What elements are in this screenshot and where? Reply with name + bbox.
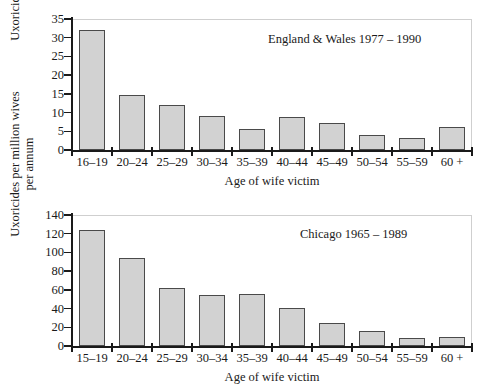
x-axis-tick (311, 343, 313, 352)
bar (359, 135, 385, 150)
x-axis-tick-label: 16–19 (76, 156, 107, 169)
x-axis-tick (151, 147, 153, 156)
chart-panel-chicago: Uxoricides per million wives per annum C… (0, 196, 487, 392)
x-axis-tick-label: 25–29 (156, 156, 187, 169)
x-axis-tick (191, 343, 193, 352)
x-axis-title-top: Age of wife victim (72, 174, 472, 189)
y-axis-tick-label: 80 (22, 265, 64, 278)
x-axis-tick-label: 25–29 (156, 352, 187, 365)
x-axis-tick-label: 45–49 (316, 156, 347, 169)
x-axis-tick-label: 55–59 (396, 156, 427, 169)
bar (439, 337, 465, 346)
bar (79, 230, 105, 346)
y-axis-tick-label: 0 (22, 340, 64, 353)
uxoricide-rate-figure: Uxoricides per million wives per annum E… (0, 0, 487, 392)
x-axis-tick-label: 35–39 (236, 352, 267, 365)
x-axis-tick (151, 343, 153, 352)
x-axis-tick-label: 50–54 (356, 352, 387, 365)
bar (119, 258, 145, 346)
y-axis-tick-label: 20 (22, 321, 64, 334)
x-axis-tick (351, 343, 353, 352)
bar (399, 338, 425, 346)
y-axis-tick (64, 289, 73, 291)
y-axis-tick-label: 40 (22, 302, 64, 315)
bar (159, 288, 185, 346)
y-axis-title-line1: Uxoricides per million wives (8, 0, 22, 41)
bar (279, 117, 305, 150)
y-axis-tick-label: 60 (22, 284, 64, 297)
y-axis-tick-label: 120 (22, 227, 64, 240)
x-axis-title-bottom: Age of wife victim (72, 370, 472, 385)
x-axis-tick (351, 147, 353, 156)
x-axis-tick (271, 343, 273, 352)
x-axis-tick-label: 60 + (441, 352, 464, 365)
chart-annotation-top: England & Wales 1977 – 1990 (268, 32, 421, 47)
x-axis-tick (431, 343, 433, 352)
x-axis-tick-label: 45–49 (316, 352, 347, 365)
y-axis-tick-label: 25 (22, 50, 64, 63)
x-axis-tick (231, 343, 233, 352)
bar (439, 127, 465, 150)
x-axis-tick (71, 343, 73, 352)
x-axis-tick (71, 147, 73, 156)
bar (159, 105, 185, 150)
x-axis-tick (231, 147, 233, 156)
chart-panel-england-wales: Uxoricides per million wives per annum E… (0, 0, 487, 196)
bar (119, 95, 145, 150)
x-axis-tick (111, 343, 113, 352)
y-axis-tick-label: 100 (22, 246, 64, 259)
bar (199, 116, 225, 150)
x-axis-tick-label: 55–59 (396, 352, 427, 365)
bar (359, 331, 385, 346)
y-axis-tick-label: 5 (22, 125, 64, 138)
x-axis-tick-label: 40–44 (276, 156, 307, 169)
y-axis-tick-label: 30 (22, 31, 64, 44)
y-axis-tick (64, 214, 73, 216)
x-axis-tick-label: 40–44 (276, 352, 307, 365)
x-axis-tick (111, 147, 113, 156)
x-axis-tick-label: 20–24 (116, 352, 147, 365)
x-axis-tick (471, 147, 473, 156)
x-axis-tick-label: 30–34 (196, 156, 227, 169)
bar (279, 308, 305, 346)
y-axis-tick-label: 0 (22, 144, 64, 157)
y-axis-tick (64, 252, 73, 254)
x-axis-tick-label: 20–24 (116, 156, 147, 169)
chart-annotation-bottom: Chicago 1965 – 1989 (300, 227, 407, 242)
y-axis-tick (64, 270, 73, 272)
bar (399, 138, 425, 150)
x-axis-tick (191, 147, 193, 156)
y-axis-tick-label: 35 (22, 13, 64, 26)
bar (319, 123, 345, 150)
y-axis-tick (64, 56, 73, 58)
x-axis-tick (431, 147, 433, 156)
y-axis-tick (64, 131, 73, 133)
x-axis-tick-label: 50–54 (356, 156, 387, 169)
bar (199, 295, 225, 346)
y-axis-tick (64, 327, 73, 329)
y-axis-tick-label: 15 (22, 88, 64, 101)
y-axis-tick (64, 112, 73, 114)
x-axis-tick (311, 147, 313, 156)
y-axis-tick-label: 20 (22, 69, 64, 82)
x-axis-tick-label: 15–19 (76, 352, 107, 365)
y-axis-tick (64, 93, 73, 95)
x-axis-tick (391, 147, 393, 156)
x-axis-tick-label: 35–39 (236, 156, 267, 169)
x-axis-tick-label: 60 + (441, 156, 464, 169)
x-axis-tick (471, 343, 473, 352)
y-axis-tick (64, 308, 73, 310)
x-axis-tick (391, 343, 393, 352)
y-axis-tick (64, 18, 73, 20)
y-axis-tick (64, 37, 73, 39)
y-axis-tick-label: 140 (22, 209, 64, 222)
bar (239, 129, 265, 150)
bar (319, 323, 345, 346)
y-axis-tick (64, 233, 73, 235)
bar (79, 30, 105, 150)
y-axis-tick (64, 74, 73, 76)
x-axis-tick (271, 147, 273, 156)
y-axis-tick-label: 10 (22, 106, 64, 119)
bar (239, 294, 265, 346)
x-axis-tick-label: 30–34 (196, 352, 227, 365)
